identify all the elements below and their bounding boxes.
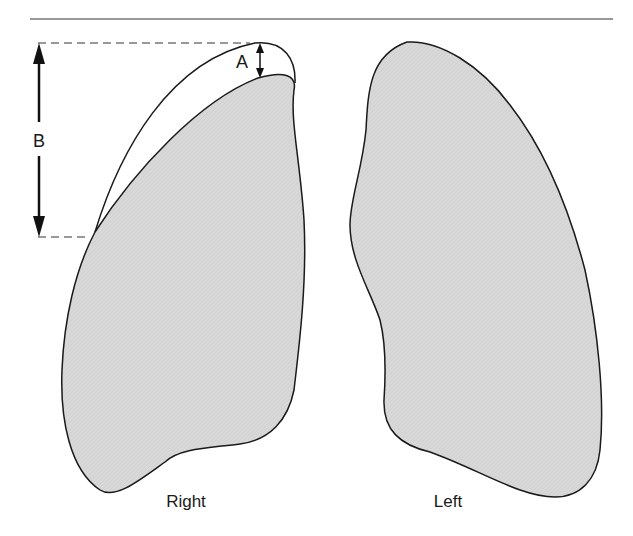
right-lung-label: Right [166,492,206,511]
left-lung-label: Left [434,492,463,511]
lung-diagram: B A Right Left [0,0,633,536]
dimension-a-label: A [236,52,248,72]
left-lung [350,42,602,497]
right-lung [62,74,305,492]
dimension-b-label: B [33,131,45,151]
